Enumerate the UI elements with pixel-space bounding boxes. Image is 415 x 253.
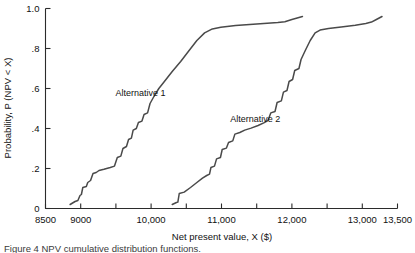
- chart-tick-marks: [46, 9, 398, 209]
- series-line-1: [70, 17, 302, 205]
- chart-axes: [46, 9, 398, 209]
- chart-series-paths: [70, 17, 382, 205]
- series-line-2: [172, 17, 382, 205]
- series-label-1: Alternative 1: [116, 88, 166, 98]
- axis-spines: [46, 9, 398, 209]
- y-tick-label: .4: [32, 123, 40, 134]
- y-tick-label: 1.0: [26, 3, 39, 14]
- x-tick-label: 13,000: [348, 214, 377, 225]
- x-tick-label: 12,000: [277, 214, 306, 225]
- y-tick-label: 0: [34, 203, 39, 214]
- y-tick-label: .8: [32, 43, 40, 54]
- npv-cdf-chart: 8500900010,00011,00012,00013,00013,500 0…: [0, 0, 415, 253]
- y-axis-tick-labels: 0.2.4.6.81.0: [26, 3, 39, 214]
- x-tick-label: 13,500: [383, 214, 412, 225]
- x-tick-label: 11,000: [207, 214, 235, 225]
- x-tick-label: 8500: [35, 214, 56, 225]
- x-tick-label: 10,000: [137, 214, 166, 225]
- y-axis-title: Probability, P (NPV < X): [2, 58, 13, 159]
- x-axis-tick-labels: 8500900010,00011,00012,00013,00013,500: [35, 214, 412, 225]
- y-tick-label: .6: [32, 83, 40, 94]
- x-tick-label: 9000: [70, 214, 91, 225]
- figure-caption: Figure 4 NPV cumulative distribution fun…: [4, 243, 201, 253]
- series-annotations: Alternative 1Alternative 2: [116, 88, 281, 124]
- figure-container: 8500900010,00011,00012,00013,00013,500 0…: [0, 0, 415, 253]
- series-label-2: Alternative 2: [230, 114, 280, 124]
- y-tick-label: .2: [32, 163, 40, 174]
- x-axis-title: Net present value, X ($): [172, 231, 272, 242]
